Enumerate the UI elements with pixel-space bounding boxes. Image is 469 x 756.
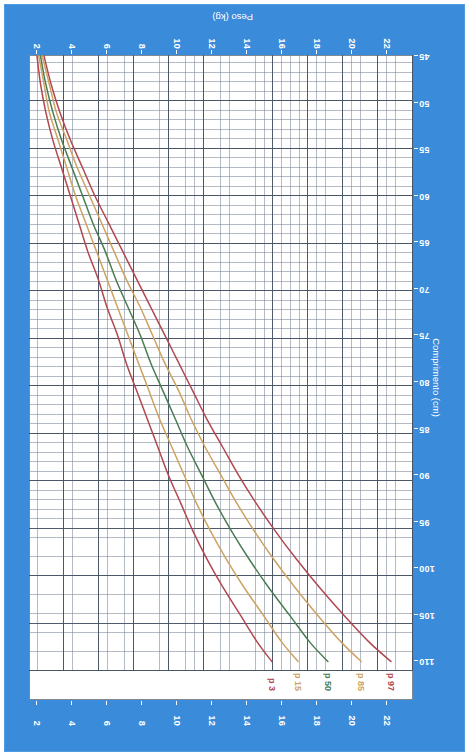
growth-chart-page: Peso (kg) Comprimento (cm) 2220181614121… [0, 0, 469, 756]
x-tick-label: 12 [207, 716, 217, 726]
y-tick-label: 80 [419, 378, 443, 388]
y-tick-mark [414, 381, 418, 382]
x-tick-mark [351, 50, 352, 54]
x-tick-mark [246, 50, 247, 54]
curve-p-15 [39, 56, 298, 662]
x-tick-mark [36, 50, 37, 54]
y-tick-label: 75 [419, 331, 443, 341]
curve-label-p-15: p 15 [293, 673, 303, 691]
y-tick-label: 65 [419, 238, 443, 248]
y-tick-label: 100 [419, 564, 443, 574]
x-tick-label: 14 [242, 39, 252, 49]
x-tick-mark [211, 50, 212, 54]
x-tick-label: 4 [67, 721, 77, 726]
percentile-curves [29, 55, 413, 700]
y-tick-mark [414, 195, 418, 196]
y-tick-label: 60 [419, 192, 443, 202]
curve-p-85 [42, 56, 361, 662]
x-tick-label: 16 [277, 39, 287, 49]
x-tick-label: 6 [102, 44, 112, 49]
x-tick-label: 6 [102, 721, 112, 726]
x-tick-mark [106, 701, 107, 705]
y-tick-mark [414, 241, 418, 242]
y-tick-mark [414, 661, 418, 662]
x-tick-mark [71, 701, 72, 705]
curve-label-p-50: p 50 [323, 673, 333, 691]
x-tick-mark [316, 701, 317, 705]
x-tick-label: 14 [242, 716, 252, 726]
x-tick-mark [176, 701, 177, 705]
y-tick-mark [414, 288, 418, 289]
y-tick-mark [414, 428, 418, 429]
y-tick-mark [414, 567, 418, 568]
x-tick-mark [316, 50, 317, 54]
x-tick-mark [176, 50, 177, 54]
curve-p-97 [44, 56, 391, 662]
y-tick-label: 85 [419, 425, 443, 435]
y-tick-mark [414, 614, 418, 615]
chart-rotated-wrapper: Peso (kg) Comprimento (cm) 2220181614121… [0, 0, 469, 756]
curve-label-p-3: p 3 [267, 678, 277, 691]
x-tick-label: 10 [172, 39, 182, 49]
x-tick-mark [141, 701, 142, 705]
x-tick-label: 16 [277, 716, 287, 726]
y-tick-label: 55 [419, 145, 443, 155]
y-tick-mark [414, 334, 418, 335]
x-tick-label: 18 [312, 39, 322, 49]
y-tick-mark [414, 55, 418, 56]
x-tick-label: 2 [32, 44, 42, 49]
y-tick-label: 90 [419, 471, 443, 481]
x-tick-mark [386, 701, 387, 705]
x-tick-label: 22 [382, 39, 392, 49]
curve-label-p-85: p 85 [356, 673, 366, 691]
x-tick-label: 10 [172, 716, 182, 726]
x-tick-mark [386, 50, 387, 54]
x-tick-mark [211, 701, 212, 705]
curve-p-50 [41, 56, 328, 662]
x-tick-label: 2 [32, 721, 42, 726]
x-tick-label: 12 [207, 39, 217, 49]
x-tick-mark [281, 50, 282, 54]
y-tick-mark [414, 148, 418, 149]
y-tick-label: 45 [419, 52, 443, 62]
y-tick-label: 70 [419, 285, 443, 295]
x-tick-label: 8 [137, 44, 147, 49]
x-tick-label: 20 [347, 39, 357, 49]
x-tick-label: 22 [382, 716, 392, 726]
y-tick-mark [414, 102, 418, 103]
y-tick-label: 50 [419, 99, 443, 109]
x-tick-mark [246, 701, 247, 705]
y-tick-label: 110 [419, 658, 443, 668]
y-tick-label: 95 [419, 518, 443, 528]
x-tick-mark [281, 701, 282, 705]
y-tick-label: 105 [419, 611, 443, 621]
plot-area: p 97p 85p 50p 15p 3 [29, 55, 413, 700]
x-tick-label: 4 [67, 44, 77, 49]
x-tick-mark [71, 50, 72, 54]
y-tick-mark [414, 521, 418, 522]
x-axis-title: Peso (kg) [212, 12, 253, 23]
x-tick-mark [351, 701, 352, 705]
y-tick-mark [414, 474, 418, 475]
x-tick-mark [106, 50, 107, 54]
x-tick-label: 20 [347, 716, 357, 726]
curve-label-p-97: p 97 [386, 673, 396, 691]
x-tick-label: 8 [137, 721, 147, 726]
x-tick-mark [36, 701, 37, 705]
x-tick-mark [141, 50, 142, 54]
curve-p-3 [37, 56, 272, 662]
x-tick-label: 18 [312, 716, 322, 726]
